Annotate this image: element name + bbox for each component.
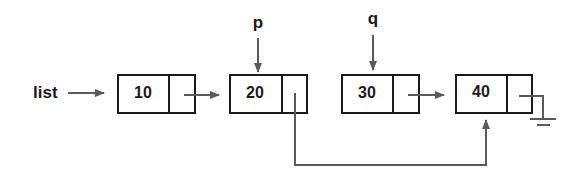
pointer-p-label: p (253, 13, 263, 32)
node-box (456, 75, 532, 113)
node-10: 10 (118, 75, 195, 113)
node-value: 10 (134, 84, 152, 101)
node-box (342, 75, 419, 113)
pointer-q-label: q (368, 9, 378, 28)
node-value: 30 (358, 84, 376, 101)
linked-list-diagram: list 10 p 20 q 30 40 (0, 0, 582, 181)
node-value: 20 (246, 84, 264, 101)
node-40: 40 (456, 75, 532, 113)
node-box (118, 75, 195, 113)
node-30: 30 (342, 75, 419, 113)
node-value: 40 (472, 83, 490, 100)
list-label: list (33, 83, 58, 102)
